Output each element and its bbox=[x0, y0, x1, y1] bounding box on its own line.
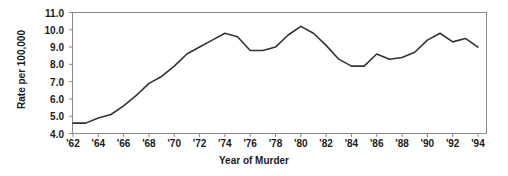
y-tick-label: 10.0 bbox=[30, 24, 64, 35]
data-series-line bbox=[73, 26, 478, 123]
y-tick-label: 7.0 bbox=[30, 76, 64, 87]
murder-rate-line-chart: 4.05.06.07.08.09.010.011.0 '62'64'66'68'… bbox=[0, 0, 508, 176]
y-axis-title: Rate per 100,000 bbox=[16, 5, 27, 135]
axis-lines bbox=[72, 12, 487, 134]
x-tick-label: '94 bbox=[463, 138, 493, 149]
y-tick-label: 5.0 bbox=[30, 111, 64, 122]
x-axis-tick-marks bbox=[73, 134, 478, 138]
y-tick-label: 11.0 bbox=[30, 7, 64, 18]
y-tick-label: 6.0 bbox=[30, 93, 64, 104]
y-tick-label: 9.0 bbox=[30, 42, 64, 53]
y-axis-tick-marks bbox=[69, 13, 73, 134]
x-axis-title: Year of Murder bbox=[0, 155, 508, 166]
plot-area bbox=[0, 0, 508, 176]
y-tick-label: 8.0 bbox=[30, 59, 64, 70]
